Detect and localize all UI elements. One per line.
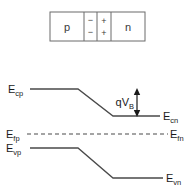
ecp-label: Ecp <box>8 83 23 98</box>
barrier-annotation: qVB <box>116 88 141 117</box>
ecp-label-base: E <box>8 83 15 95</box>
n-region-label: n <box>125 21 131 33</box>
barrier-arrowhead-up <box>134 88 140 95</box>
efp-label: Efp <box>6 128 20 143</box>
evn-label-sub: vn <box>173 178 181 187</box>
evp-label-base: E <box>6 142 13 154</box>
evn-label-base: E <box>166 172 173 184</box>
conduction-band-line <box>30 89 160 116</box>
ecn-label-base: E <box>163 110 170 122</box>
barrier-label-sub: B <box>129 102 134 111</box>
energy-band-figure: p − − + + n Ecp Ecn qVB Efp Efn Evp Evn <box>0 0 195 195</box>
ecn-label: Ecn <box>163 110 178 125</box>
evn-label: Evn <box>166 172 181 187</box>
ecp-label-sub: cp <box>15 89 23 98</box>
ecn-label-sub: cn <box>170 116 178 125</box>
negative-sign-top: − <box>88 15 93 25</box>
positive-sign-bottom: + <box>101 28 106 38</box>
barrier-label-prefix: qV <box>116 96 130 108</box>
efn-label-sub: fn <box>177 134 183 143</box>
p-region-label: p <box>64 21 70 33</box>
positive-sign-top: + <box>101 16 106 26</box>
efn-label: Efn <box>170 128 184 143</box>
barrier-label: qVB <box>116 96 134 111</box>
evp-label: Evp <box>6 142 21 157</box>
junction-box: p − − + + n <box>50 12 145 41</box>
evp-label-sub: vp <box>13 148 21 157</box>
negative-sign-bottom: − <box>88 27 93 37</box>
valence-band-line <box>30 148 163 178</box>
efp-label-base: E <box>6 128 13 140</box>
efp-label-sub: fp <box>13 134 19 143</box>
efn-label-base: E <box>170 128 177 140</box>
